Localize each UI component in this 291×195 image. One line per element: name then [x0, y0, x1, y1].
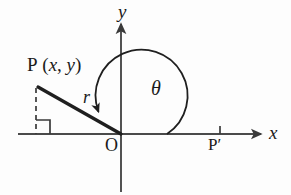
x-axis-label: x — [269, 123, 277, 142]
origin-label: O — [105, 136, 118, 154]
polar-coordinate-figure: y x P (x, y) r θ O P′ — [0, 0, 291, 195]
paren-close: ) — [75, 54, 81, 75]
angle-theta-label: θ — [151, 78, 161, 98]
right-angle-marker — [36, 120, 50, 134]
angle-arc-theta — [96, 50, 188, 134]
point-p-label: P (x, y) — [27, 55, 81, 74]
point-p-letter: P — [27, 54, 38, 75]
y-axis-label: y — [118, 2, 126, 21]
point-p-x-coordinate: x — [49, 54, 57, 75]
point-p-y-coordinate: y — [67, 54, 75, 75]
figure-canvas — [0, 0, 291, 195]
radius-label: r — [83, 88, 90, 106]
coordinate-separator: , — [57, 54, 67, 75]
point-p-prime-label: P′ — [208, 136, 221, 153]
